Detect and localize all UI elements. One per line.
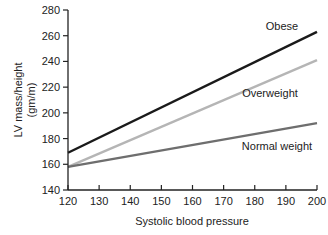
y-tick-label: 160 <box>42 158 60 170</box>
series-label: Overweight <box>242 87 298 99</box>
x-tick-label: 120 <box>59 195 77 207</box>
line-chart: 140160180200220240260280 120130140150160… <box>0 0 328 235</box>
x-tick-label: 180 <box>246 195 264 207</box>
series-label: Obese <box>266 20 298 32</box>
x-tick-label: 190 <box>277 195 295 207</box>
x-tick-label: 160 <box>183 195 201 207</box>
x-tick-label: 170 <box>214 195 232 207</box>
y-tick-label: 220 <box>42 81 60 93</box>
y-tick-label: 140 <box>42 184 60 196</box>
y-tick-label: 200 <box>42 107 60 119</box>
x-tick-label: 130 <box>90 195 108 207</box>
x-tick-label: 150 <box>152 195 170 207</box>
y-axis-label: LV mass/height (gm/m) <box>12 62 37 137</box>
y-tick-label: 240 <box>42 55 60 67</box>
x-tick-label: 200 <box>308 195 326 207</box>
x-tick-label: 140 <box>121 195 139 207</box>
y-axis: 140160180200220240260280 <box>42 4 68 196</box>
x-axis: 120130140150160170180190200 <box>59 185 326 207</box>
y-axis-label-line-1: LV mass/height <box>12 62 24 137</box>
y-tick-label: 280 <box>42 4 60 16</box>
series-label: Normal weight <box>242 140 312 152</box>
y-axis-label-line-2: (gm/m) <box>25 83 37 118</box>
y-tick-label: 180 <box>42 133 60 145</box>
y-tick-label: 260 <box>42 30 60 42</box>
x-axis-label: Systolic blood pressure <box>135 215 249 227</box>
